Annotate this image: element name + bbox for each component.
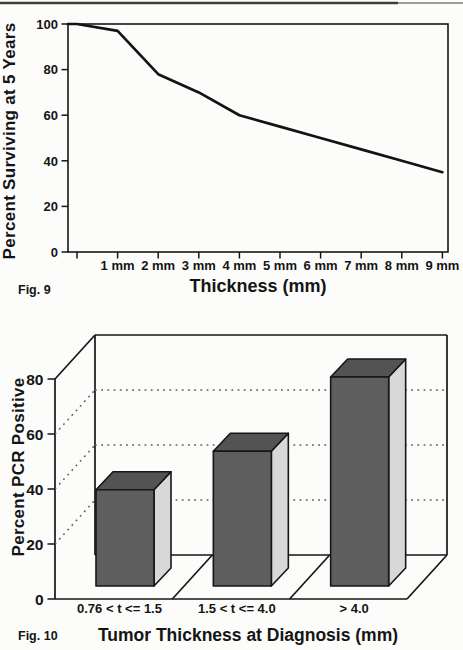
fig9-survival-curve xyxy=(68,24,442,172)
fig10-y-tick-label: 80 xyxy=(26,371,43,388)
figures-canvas: 020406080100 1 mm2 mm3 mm4 mm5 mm6 mm7 m… xyxy=(0,0,463,650)
fig9-x-tick-label: 3 mm xyxy=(182,258,216,273)
fig10-y-axis-title: Percent PCR Positive xyxy=(9,378,28,557)
fig9-y-tick-label: 80 xyxy=(44,62,58,77)
fig9-caption-label: Fig. 9 xyxy=(18,283,51,297)
fig10-floor-separator xyxy=(172,555,212,599)
fig10-x-axis-title: Tumor Thickness at Diagnosis (mm) xyxy=(98,625,398,645)
bar-front-face xyxy=(331,377,389,586)
fig10-gridline-wall xyxy=(55,390,95,434)
fig10-category-label: 0.76 < t <= 1.5 xyxy=(77,601,162,616)
fig9-y-axis-title: Percent Surviving at 5 Years xyxy=(0,23,19,260)
fig10-y-tick-label: 40 xyxy=(26,481,43,498)
bar-side-face xyxy=(154,472,171,586)
fig9-x-tick-label: 9 mm xyxy=(425,258,459,273)
fig9-x-axis-title: Thickness (mm) xyxy=(189,276,326,296)
fig10-category-label: > 4.0 xyxy=(340,601,369,616)
fig10-floor-right-edge xyxy=(407,555,447,599)
fig10-y-tick-label: 0 xyxy=(35,591,44,608)
fig9-x-tick-label: 4 mm xyxy=(222,258,256,273)
fig10-bars xyxy=(96,359,406,586)
fig9-y-tick-label: 40 xyxy=(44,154,58,169)
fig9-plot-box xyxy=(68,24,448,252)
fig10-category-label: 1.5 < t <= 4.0 xyxy=(198,601,276,616)
fig9-y-tick-label: 20 xyxy=(44,199,58,214)
fig9-x-tick-label: 8 mm xyxy=(385,258,419,273)
fig10-floor-separator xyxy=(290,555,330,599)
fig10-left-wall-top-edge xyxy=(55,335,95,379)
fig10-gridline-wall xyxy=(55,500,95,544)
fig9-y-tick-label: 100 xyxy=(36,17,58,32)
fig9-survival-line xyxy=(68,24,442,172)
fig9-y-tick-label: 60 xyxy=(44,108,58,123)
fig9-x-axis-ticks: 1 mm2 mm3 mm4 mm5 mm6 mm7 mm8 mm9 mm xyxy=(77,252,459,273)
figure-9-line-chart: 020406080100 1 mm2 mm3 mm4 mm5 mm6 mm7 m… xyxy=(0,17,459,297)
bar-side-face xyxy=(271,433,288,586)
fig9-x-tick-label: 6 mm xyxy=(304,258,338,273)
fig10-caption-label: Fig. 10 xyxy=(18,629,58,643)
bar-side-face xyxy=(389,359,406,586)
fig10-category-labels: 0.76 < t <= 1.51.5 < t <= 4.0> 4.0 xyxy=(77,601,369,616)
figure-10-bar-chart: 020406080 0.76 < t <= 1.51.5 < t <= 4.0>… xyxy=(9,335,447,645)
fig9-x-tick-label: 2 mm xyxy=(141,258,175,273)
fig9-x-tick-label: 7 mm xyxy=(344,258,378,273)
fig10-y-tick-label: 20 xyxy=(26,536,43,553)
document-page: 020406080100 1 mm2 mm3 mm4 mm5 mm6 mm7 m… xyxy=(0,0,463,650)
fig10-gridline-wall xyxy=(55,445,95,489)
fig10-y-axis-ticks: 020406080 xyxy=(26,371,55,608)
bar-front-face xyxy=(96,490,154,586)
fig9-x-tick-label: 1 mm xyxy=(101,258,135,273)
fig9-y-axis-ticks: 020406080100 xyxy=(36,17,68,260)
fig9-x-tick-label: 5 mm xyxy=(263,258,297,273)
bar-front-face xyxy=(213,451,271,586)
fig9-y-tick-label: 0 xyxy=(51,245,58,260)
fig10-y-tick-label: 60 xyxy=(26,426,43,443)
